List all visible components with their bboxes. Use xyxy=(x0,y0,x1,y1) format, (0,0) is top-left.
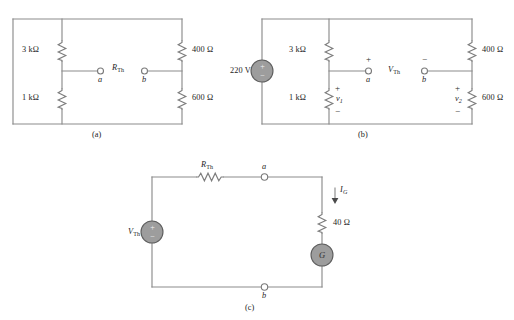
resistor-1k-a xyxy=(58,88,66,110)
source-220v-plus-sign: + xyxy=(258,63,267,71)
terminal-b-circuit-c xyxy=(261,284,267,290)
sign-plus-terminal-a-circuit-b: + xyxy=(366,55,371,64)
resistor-rth-c xyxy=(196,173,224,181)
label-terminal-a-circuit-a: a xyxy=(98,76,102,84)
label-terminal-b-circuit-b: b xyxy=(422,76,426,84)
label-resistor-400-a: 400 Ω xyxy=(192,46,213,54)
label-resistor-3k-b: 3 kΩ xyxy=(289,46,306,54)
label-vth-source-sub-c: Th xyxy=(133,231,140,237)
current-arrow-head-ig xyxy=(332,198,339,204)
label-terminal-b-circuit-c: b xyxy=(262,292,266,300)
source-220v-minus-sign: − xyxy=(258,72,267,80)
label-galvanometer-g: G xyxy=(319,251,325,260)
circuit-b-group xyxy=(251,19,476,124)
circuit-a-group xyxy=(13,19,186,124)
source-vth-plus-sign: + xyxy=(148,224,157,232)
label-terminal-b-circuit-a: b xyxy=(142,76,146,84)
sign-minus-terminal-b-circuit-b: − xyxy=(422,55,427,64)
terminal-a-circuit-c xyxy=(261,174,267,180)
label-resistor-400-b: 400 Ω xyxy=(482,46,503,54)
label-terminal-a-circuit-c: a xyxy=(262,163,266,171)
resistor-3k-b xyxy=(325,40,333,62)
resistor-400-b xyxy=(468,40,476,62)
circuit-c-group xyxy=(141,173,338,290)
resistor-1k-b xyxy=(325,88,333,110)
terminal-b-circuit-b xyxy=(422,68,428,74)
resistor-400-a xyxy=(178,40,186,62)
label-rth-circuit-c: RTh xyxy=(201,161,213,169)
label-resistor-600-a: 600 Ω xyxy=(192,94,213,102)
resistor-40-c xyxy=(318,212,326,234)
label-rth-sub-a: Th xyxy=(117,67,124,73)
label-terminal-a-circuit-b: a xyxy=(366,76,370,84)
label-rth-sub-c: Th xyxy=(206,164,213,170)
circuit-schematic-canvas xyxy=(0,0,514,320)
resistor-600-a xyxy=(178,88,186,110)
circuit-figure: 3 kΩ 1 kΩ 400 Ω 600 Ω a b RTh (a) 220 V … xyxy=(0,0,514,320)
label-resistor-1k-b: 1 kΩ xyxy=(289,94,306,102)
label-resistor-40-c: 40 Ω xyxy=(333,219,350,227)
label-vth-sub-b: Th xyxy=(393,69,400,75)
label-v1: v1 xyxy=(336,95,343,103)
label-v2: v2 xyxy=(455,95,462,103)
sign-plus-v1: + xyxy=(335,84,340,93)
sign-minus-v2: − xyxy=(455,107,460,116)
sign-plus-v2: + xyxy=(455,84,460,93)
terminal-b-circuit-a xyxy=(142,68,148,74)
label-current-ig-sub: G xyxy=(343,189,348,195)
label-v1-sub: 1 xyxy=(340,98,343,104)
label-source-220v: 220 V xyxy=(230,67,251,75)
label-vth-circuit-b: VTh xyxy=(388,66,400,74)
terminal-a-circuit-a xyxy=(98,68,104,74)
resistor-600-b xyxy=(468,88,476,110)
label-v2-sub: 2 xyxy=(459,98,462,104)
label-vth-source-c: VTh xyxy=(128,228,140,236)
caption-circuit-a: (a) xyxy=(92,130,101,139)
label-rth-circuit-a: RTh xyxy=(112,64,124,72)
source-vth-minus-sign: − xyxy=(148,233,157,241)
label-resistor-1k-a: 1 kΩ xyxy=(22,94,39,102)
label-resistor-3k-a: 3 kΩ xyxy=(22,46,39,54)
label-current-ig: IG xyxy=(340,186,347,194)
resistor-3k-a xyxy=(58,40,66,62)
label-resistor-600-b: 600 Ω xyxy=(482,94,503,102)
terminal-a-circuit-b xyxy=(366,68,372,74)
caption-circuit-b: (b) xyxy=(358,130,368,139)
sign-minus-v1: − xyxy=(335,107,340,116)
caption-circuit-c: (c) xyxy=(245,303,254,312)
